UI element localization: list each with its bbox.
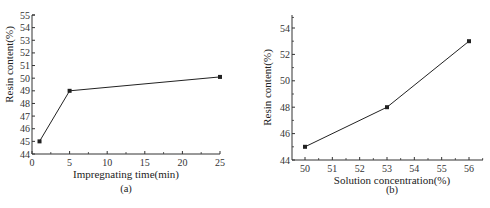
y-tick-label: 50 [280, 75, 290, 86]
y-tick-label: 46 [20, 123, 30, 134]
chart-panel-b: 44464850525450515253545556Solution conce… [261, 15, 483, 196]
data-point-marker [218, 75, 222, 79]
y-tick-label: 45 [20, 136, 30, 147]
data-point-marker [38, 139, 42, 143]
y-tick-label: 48 [20, 98, 30, 109]
x-tick-label: 50 [300, 163, 310, 174]
y-tick-label: 44 [280, 155, 290, 166]
y-tick-label: 50 [20, 73, 30, 84]
panel-caption: (b) [386, 184, 399, 196]
data-point-marker [68, 89, 72, 93]
x-tick-label: 56 [464, 163, 474, 174]
y-tick-label: 46 [280, 128, 290, 139]
x-tick-label: 55 [437, 163, 447, 174]
x-tick-label: 51 [327, 163, 337, 174]
y-tick-label: 54 [20, 22, 30, 33]
x-axis-title: Impregnating time(min) [73, 168, 179, 181]
data-point-marker [303, 145, 307, 149]
data-line [305, 41, 469, 147]
panel-caption: (a) [120, 183, 132, 195]
y-tick-label: 55 [20, 10, 30, 21]
y-tick-label: 51 [20, 60, 30, 71]
x-tick-label: 5 [67, 157, 72, 168]
x-tick-label: 25 [215, 157, 225, 168]
y-tick-label: 47 [20, 111, 30, 122]
y-tick-label: 53 [20, 35, 30, 46]
x-tick-label: 10 [102, 157, 112, 168]
data-point-marker [467, 39, 471, 43]
y-tick-label: 48 [280, 102, 290, 113]
y-axis-title: Resin content(%) [261, 49, 274, 126]
y-axis-title: Resin content(%) [3, 26, 16, 103]
figure: 4445464748495051525354550510152025Impreg… [0, 0, 490, 208]
x-tick-label: 54 [409, 163, 419, 174]
x-tick-label: 53 [382, 163, 392, 174]
chart-panel-a: 4445464748495051525354550510152025Impreg… [3, 10, 225, 196]
x-tick-label: 20 [177, 157, 187, 168]
x-tick-label: 15 [140, 157, 150, 168]
x-tick-label: 0 [30, 157, 35, 168]
y-tick-label: 54 [280, 23, 290, 34]
data-line [40, 77, 220, 141]
y-tick-label: 52 [280, 49, 290, 60]
x-tick-label: 52 [355, 163, 365, 174]
y-tick-label: 52 [20, 47, 30, 58]
data-point-marker [385, 105, 389, 109]
y-tick-label: 44 [20, 149, 30, 160]
y-tick-label: 49 [20, 85, 30, 96]
